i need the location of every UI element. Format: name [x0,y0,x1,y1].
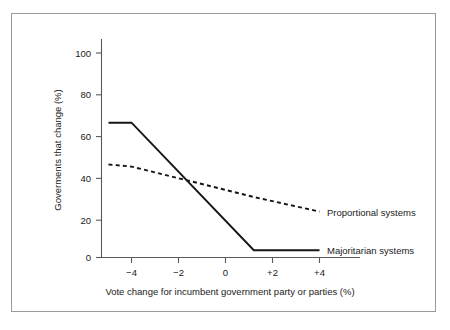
y-tick-label-80: 80 [80,89,91,100]
y-tick-label-60: 60 [80,131,91,142]
x-tick-label-minus2: −2 [173,267,184,278]
y-axis-title: Goverments that change (%) [52,89,63,210]
series-line-proportional [109,165,320,212]
x-tick-label-zero: 0 [223,267,228,278]
y-tick-label-0: 0 [86,252,91,263]
x-tick-marks [132,258,320,264]
figure-frame: 100 80 60 40 20 0 −4 −2 0 +2 +4 Vote cha… [11,13,436,312]
x-tick-label-minus4: −4 [126,267,137,278]
y-tick-label-40: 40 [80,173,91,184]
chart-page: 100 80 60 40 20 0 −4 −2 0 +2 +4 Vote cha… [0,0,450,330]
x-axis-title: Vote change for incumbent government par… [105,286,354,297]
x-tick-label-plus2: +2 [267,267,278,278]
y-tick-marks [96,53,102,258]
series-label-majoritarian: Majoritarian systems [327,245,414,256]
series-line-majoritarian [109,123,320,251]
y-tick-label-100: 100 [75,48,91,59]
series-label-proportional: Proportional systems [327,207,416,218]
line-chart: 100 80 60 40 20 0 −4 −2 0 +2 +4 Vote cha… [12,14,435,311]
x-tick-label-plus4: +4 [314,267,325,278]
y-tick-label-20: 20 [80,215,91,226]
